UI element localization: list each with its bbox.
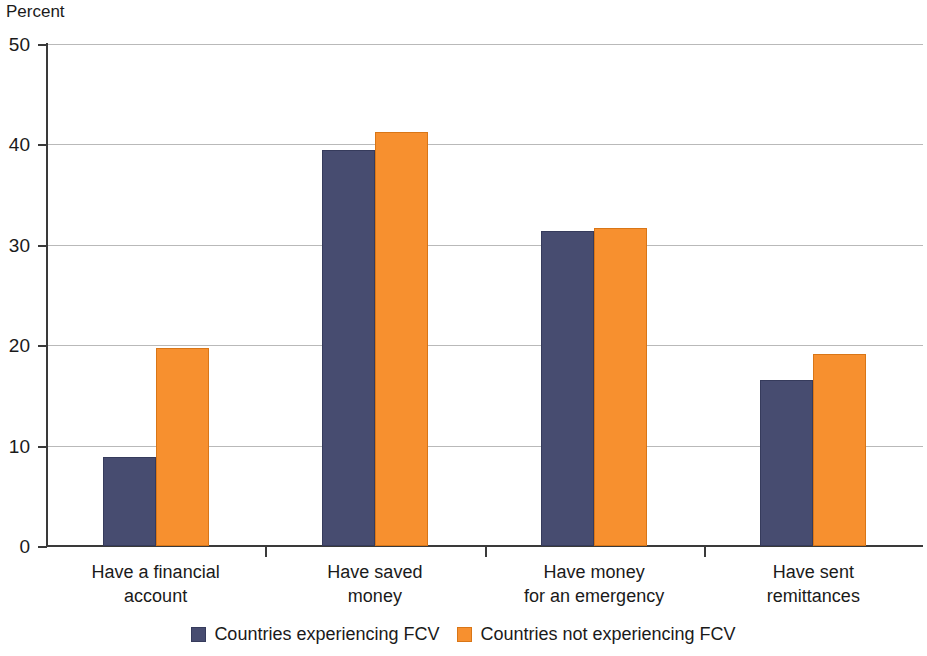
x-axis-category-label: Have moneyfor an emergency — [485, 560, 704, 608]
x-axis-category-label-line: money — [265, 584, 484, 608]
bar — [813, 354, 866, 546]
x-axis-category-label-line: Have sent — [704, 560, 923, 584]
y-axis-tick-label: 10 — [0, 437, 30, 456]
bar — [103, 457, 156, 546]
x-axis-category-label: Have sentremittances — [704, 560, 923, 608]
x-axis-category-label-line: remittances — [704, 584, 923, 608]
legend-item: Countries not experiencing FCV — [457, 624, 735, 644]
bar — [760, 380, 813, 546]
bar — [322, 150, 375, 546]
y-axis-title: Percent — [6, 2, 65, 22]
y-axis-tick-label: 20 — [0, 336, 30, 355]
bar — [156, 348, 209, 546]
legend-item: Countries experiencing FCV — [191, 624, 439, 644]
x-axis-tick — [704, 547, 706, 557]
y-axis-tick-label: 0 — [0, 537, 30, 556]
x-axis-category-label-line: Have saved — [265, 560, 484, 584]
x-axis-category-label-line: account — [46, 584, 265, 608]
x-axis-category-label-line: Have money — [485, 560, 704, 584]
x-axis-category-label-line: Have a financial — [46, 560, 265, 584]
x-axis-category-label: Have a financialaccount — [46, 560, 265, 608]
y-axis-tick-label: 40 — [0, 135, 30, 154]
x-axis-category-label-line: for an emergency — [485, 584, 704, 608]
y-axis-tick-label: 50 — [0, 35, 30, 54]
legend-swatch-icon — [191, 627, 206, 642]
plot-area — [46, 44, 923, 546]
chart-legend: Countries experiencing FCVCountries not … — [0, 624, 927, 644]
bar-chart-figure: Percent 01020304050 Have a financialacco… — [0, 0, 927, 656]
legend-label: Countries not experiencing FCV — [480, 624, 735, 644]
legend-swatch-icon — [457, 627, 472, 642]
bar — [594, 228, 647, 546]
bar — [541, 231, 594, 546]
y-axis-tick-label: 30 — [0, 236, 30, 255]
bar — [375, 132, 428, 546]
x-axis-category-label: Have savedmoney — [265, 560, 484, 608]
x-axis-tick — [265, 547, 267, 557]
legend-label: Countries experiencing FCV — [214, 624, 439, 644]
x-axis-tick — [485, 547, 487, 557]
